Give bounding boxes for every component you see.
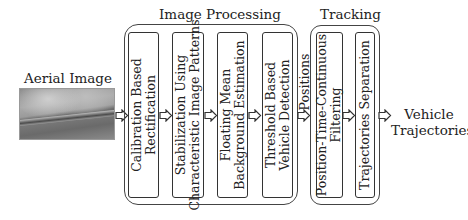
stage-stabilization: Stabilization UsingCharacteristic Image …	[172, 32, 204, 198]
stage-text-line: Characteristic Image Patterns	[188, 19, 202, 210]
tracking-title: Tracking	[320, 6, 381, 22]
stage-calibration-rectification: Calibration BasedRectification	[128, 32, 159, 198]
stage-vehicle-detection: Threshold BasedVehicle Detection	[262, 32, 293, 198]
stage-text-line: Vehicle Detection	[278, 59, 292, 170]
aerial-image-label: Aerial Image	[24, 70, 112, 86]
arrow-right-icon	[204, 109, 218, 122]
stage-text-line: Floating Mean	[219, 40, 233, 189]
stage-position-time-filtering: Position-Time-ContinuousFiltering	[316, 32, 343, 198]
output-line: Trajectories	[391, 122, 467, 138]
output-line: Vehicle	[391, 106, 467, 122]
arrow-right-icon	[297, 109, 311, 122]
stage-text-line: Background Estimation	[233, 40, 247, 189]
stage-text-line: Calibration Based	[130, 58, 144, 171]
stage-background-estimation: Floating MeanBackground Estimation	[217, 32, 248, 198]
arrow-right-icon	[159, 109, 173, 122]
stage-trajectories-separation: Trajectories Separation	[355, 32, 375, 198]
road-in-image	[20, 110, 114, 126]
output-label: Vehicle Trajectories	[391, 106, 467, 138]
arrow-right-icon	[248, 109, 262, 122]
arrow-right-icon	[342, 109, 356, 122]
arrow-right-icon	[378, 109, 392, 122]
stage-text-line: Trajectories Separation	[358, 40, 372, 190]
stage-text-line: Rectification	[144, 58, 158, 171]
aerial-image	[19, 88, 115, 140]
stage-text-line: Threshold Based	[264, 59, 278, 170]
